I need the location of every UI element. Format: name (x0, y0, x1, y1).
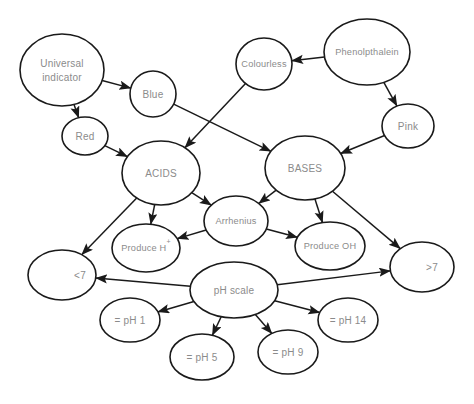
node-label-blue: Blue (143, 89, 164, 100)
node-produce-h[interactable]: Produce H+ (112, 224, 180, 272)
node-acids[interactable]: ACIDS (122, 141, 200, 205)
node-pink[interactable]: Pink (382, 104, 434, 148)
edge-phenolpthalein-to-colourless (292, 57, 325, 61)
node-ph-9[interactable]: = pH 9 (258, 330, 318, 374)
edge-phenolpthalein-to-pink (384, 82, 397, 106)
edge-pink-to-bases (341, 136, 385, 154)
node-label-greater-than-7: >7 (426, 262, 438, 273)
node-colourless[interactable]: Colourless (236, 38, 292, 90)
node-label-ph-scale: pH scale (214, 285, 255, 296)
edge-ph-scale-to-greater-than-7 (277, 271, 390, 285)
node-ph-scale[interactable]: pH scale (190, 262, 278, 318)
nodes-layer: UniversalindicatorBlueRedColourlessPheno… (20, 19, 454, 380)
edge-bases-to-produce-oh (315, 199, 323, 223)
edge-ph-scale-to-ph-14 (275, 301, 320, 313)
node-red[interactable]: Red (62, 117, 108, 155)
edge-acids-to-arrhenius (192, 193, 212, 205)
node-ph-5[interactable]: = pH 5 (170, 334, 234, 380)
edge-bases-to-arrhenius (259, 190, 276, 203)
node-label-acids: ACIDS (145, 168, 177, 179)
node-shape-greater-than-7 (390, 242, 454, 292)
node-label-red: Red (76, 131, 95, 142)
node-label-universal-indicator: Universal (40, 58, 83, 69)
node-label-less-than-7: <7 (74, 270, 86, 281)
diagram-canvas: UniversalindicatorBlueRedColourlessPheno… (0, 0, 474, 404)
node-less-than-7[interactable]: <7 (28, 250, 96, 300)
node-label-ph-14: = pH 14 (330, 315, 367, 326)
node-universal-indicator[interactable]: Universalindicator (20, 34, 104, 106)
edge-arrhenius-to-produce-h (177, 230, 206, 239)
concept-map-svg: UniversalindicatorBlueRedColourlessPheno… (0, 0, 474, 404)
node-label-ph-1: = pH 1 (115, 315, 146, 326)
node-label-produce-oh: Produce OH (304, 241, 357, 251)
node-label-colourless: Colourless (241, 59, 287, 69)
node-ph-1[interactable]: = pH 1 (100, 298, 160, 342)
node-shape-universal-indicator (20, 34, 104, 106)
edge-red-to-acids (105, 146, 128, 157)
node-label-ph-9: = pH 9 (273, 347, 304, 358)
edge-ph-scale-to-less-than-7 (96, 278, 191, 286)
edge-universal-indicator-to-red (74, 104, 79, 117)
edge-ph-scale-to-ph-5 (212, 317, 221, 335)
node-label-pink: Pink (398, 121, 419, 132)
edge-arrhenius-to-produce-oh (266, 229, 297, 237)
node-produce-oh[interactable]: Produce OH (295, 222, 365, 270)
edge-ph-scale-to-ph-1 (158, 302, 194, 312)
node-blue[interactable]: Blue (130, 71, 176, 117)
node-label-bases: BASES (288, 163, 322, 174)
node-phenolpthalein[interactable]: Phenolpthalein (324, 19, 410, 85)
edge-acids-to-produce-h (151, 205, 155, 225)
node-bases[interactable]: BASES (265, 136, 345, 200)
node-label2-universal-indicator: indicator (42, 72, 82, 83)
node-greater-than-7[interactable]: >7 (390, 242, 454, 292)
edge-ph-scale-to-ph-9 (255, 314, 272, 333)
node-label-ph-5: = pH 5 (187, 352, 218, 363)
node-ph-14[interactable]: = pH 14 (318, 298, 378, 342)
node-label-phenolpthalein: Phenolpthalein (335, 47, 399, 57)
edge-colourless-to-acids (185, 84, 246, 148)
edge-universal-indicator-to-blue (102, 81, 131, 89)
node-arrhenius[interactable]: Arrhenius (204, 196, 268, 246)
node-label-arrhenius: Arrhenius (215, 216, 256, 226)
